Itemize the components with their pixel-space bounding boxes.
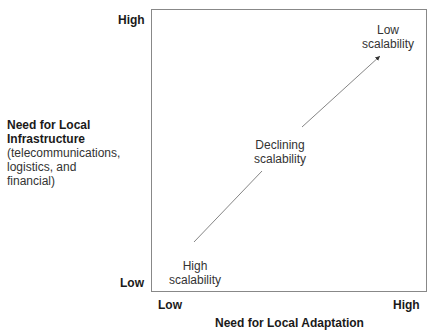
point-label-line1: Low [348, 23, 428, 37]
point-label-line2: scalability [240, 152, 320, 166]
point-label-line1: Declining [240, 138, 320, 152]
point-label-line2: scalability [155, 273, 235, 287]
point-declining-scalability: Declining scalability [240, 138, 320, 166]
point-label-line2: scalability [348, 37, 428, 51]
point-low-scalability: Low scalability [348, 23, 428, 51]
point-label-line1: High [155, 259, 235, 273]
point-high-scalability: High scalability [155, 259, 235, 287]
